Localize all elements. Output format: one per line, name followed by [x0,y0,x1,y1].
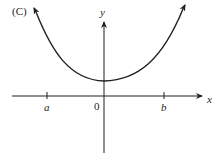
tick-label-origin: 0 [94,100,100,112]
y-axis-label: y [99,6,105,18]
tick-label-b: b [161,101,167,113]
panel-label: (C) [12,5,27,18]
tick-label-a: a [44,101,50,113]
x-axis-label: x [206,93,212,105]
function-graph: (C) y x a 0 b [0,0,223,153]
curve [34,5,185,81]
